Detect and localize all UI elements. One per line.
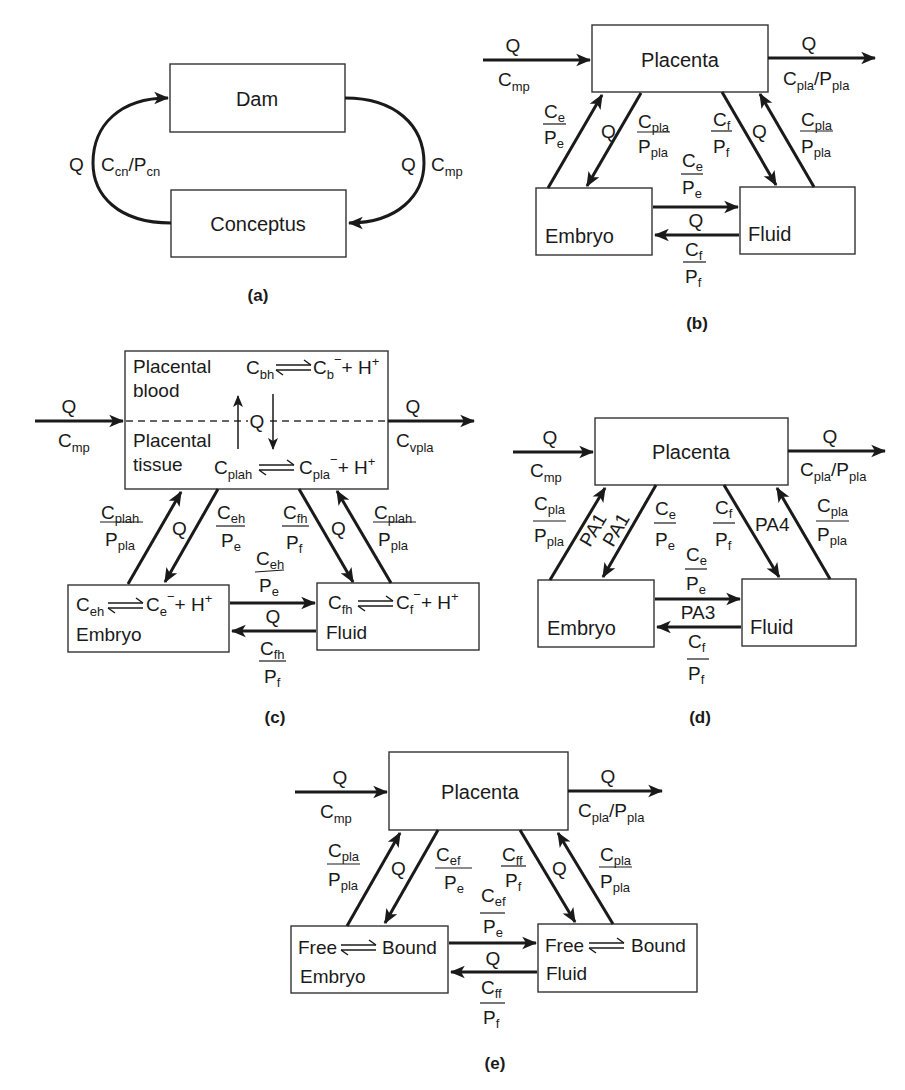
- frac-right-down: Cf Pf: [711, 109, 732, 160]
- svg-text:Ppla: Ppla: [378, 529, 409, 553]
- frac-left-up: Ce Pe: [543, 101, 566, 151]
- frac-right-down: Cfh Pf: [282, 502, 309, 556]
- svg-text:Cfh: Cfh: [283, 502, 308, 526]
- fluid-label: Fluid: [326, 622, 367, 643]
- frac-mid-top: Ceh Pe: [255, 548, 284, 599]
- mid-q: Q: [486, 948, 501, 969]
- frac-right-up: Cpla Ppla: [800, 109, 833, 160]
- caption-c: (c): [265, 708, 286, 727]
- embryo-label: Embryo: [300, 966, 365, 987]
- panel-b: Placenta Embryo Fluid Q Cmp Q Cpla/Ppla …: [483, 25, 875, 333]
- svg-text:Ppla: Ppla: [638, 136, 669, 160]
- svg-text:Ceh: Ceh: [217, 502, 245, 526]
- frac-mid-top: Ce Pe: [681, 150, 703, 201]
- caption-b: (b): [686, 314, 708, 333]
- svg-text:Cef: Cef: [436, 844, 461, 868]
- svg-text:Pf: Pf: [483, 1007, 500, 1031]
- svg-text:Cpla: Cpla: [328, 840, 360, 864]
- panel-e: Placenta Free Bound Embryo Free Bound Fl…: [291, 752, 697, 1073]
- svg-text:Bound: Bound: [631, 935, 686, 956]
- placental-blood-label-2: blood: [133, 380, 180, 401]
- dam-label: Dam: [236, 88, 278, 110]
- svg-text:Pe: Pe: [682, 177, 702, 201]
- inflow-conc: Cmp: [530, 460, 562, 485]
- svg-text:Ppla: Ppla: [534, 525, 565, 549]
- frac-right-up: Cplah Ppla: [373, 502, 416, 553]
- svg-text:Cf: Cf: [688, 631, 706, 655]
- svg-text:Pf: Pf: [286, 532, 303, 556]
- conceptus-label: Conceptus: [210, 213, 306, 235]
- mid-q: Q: [689, 210, 704, 231]
- placental-tissue-label-2: tissue: [133, 454, 183, 475]
- svg-text:Cff: Cff: [481, 977, 502, 1001]
- svg-text:Ppla: Ppla: [328, 869, 359, 893]
- svg-text:Cef: Cef: [481, 885, 506, 909]
- left-q: Q: [601, 121, 616, 142]
- right-conc-label: Cmp: [431, 154, 463, 179]
- svg-text:Pf: Pf: [505, 870, 522, 894]
- svg-text:Pe: Pe: [483, 916, 503, 940]
- frac-mid-bottom: Cfh Pf: [259, 638, 286, 690]
- outflow-conc: Cvpla: [396, 430, 434, 455]
- placenta-label: Placenta: [441, 781, 520, 803]
- right-q: Q: [752, 121, 767, 142]
- inflow-conc: Cmp: [498, 69, 530, 94]
- inflow-conc: Cmp: [320, 801, 352, 826]
- inflow-q: Q: [506, 35, 521, 56]
- svg-text:Cf: Cf: [685, 239, 703, 263]
- svg-text:Cpla: Cpla: [801, 109, 833, 133]
- svg-text:Pe: Pe: [259, 575, 279, 599]
- frac-left-up: Cpla Ppla: [327, 840, 360, 893]
- inflow-q: Q: [333, 767, 348, 788]
- frac-left-up: Cpla Ppla: [533, 493, 566, 549]
- outflow-q: Q: [802, 33, 817, 54]
- svg-text:Ce: Ce: [686, 544, 707, 568]
- svg-text:Cb−+ H+: Cb−+ H+: [313, 352, 379, 382]
- placenta-label: Placenta: [641, 49, 720, 71]
- embryo-label: Embryo: [76, 624, 141, 645]
- svg-text:Ppla: Ppla: [600, 871, 631, 895]
- svg-text:Pe: Pe: [655, 529, 675, 553]
- svg-text:Cf: Cf: [715, 497, 733, 521]
- svg-text:Pf: Pf: [715, 529, 732, 553]
- svg-text:Cfh: Cfh: [260, 638, 285, 662]
- caption-a: (a): [248, 286, 269, 305]
- svg-text:Ce: Ce: [544, 101, 565, 125]
- left-q: Q: [172, 518, 187, 539]
- svg-text:Cpla: Cpla: [817, 495, 849, 519]
- frac-left-down: Ceh Pe: [216, 502, 245, 554]
- left-flow-q: Q: [69, 154, 84, 175]
- left-q: Q: [391, 858, 406, 879]
- pa4-label: PA4: [755, 514, 790, 535]
- svg-text:Pe: Pe: [444, 872, 464, 896]
- embryo-label: Embryo: [547, 617, 616, 639]
- svg-text:Pf: Pf: [713, 136, 730, 160]
- inflow-conc: Cmp: [58, 430, 90, 455]
- outflow-conc: Cpla/Ppla: [783, 68, 850, 93]
- outflow-conc: Cpla/Ppla: [800, 459, 867, 484]
- fluid-label: Fluid: [748, 223, 791, 245]
- panel-c: Placental blood Placental tissue Cbh Cb−…: [35, 351, 479, 727]
- svg-text:Pf: Pf: [685, 266, 702, 290]
- mid-q: Q: [266, 606, 281, 627]
- svg-text:Ceh: Ceh: [256, 548, 284, 572]
- right-q: Q: [331, 518, 346, 539]
- svg-text:Pf: Pf: [264, 666, 281, 690]
- right-q: Q: [552, 858, 567, 879]
- svg-text:Ce: Ce: [655, 498, 676, 522]
- pa3-label: PA3: [681, 602, 716, 623]
- svg-text:Free: Free: [298, 937, 337, 958]
- svg-text:Free: Free: [545, 935, 584, 956]
- frac-mid-top: Ce Pe: [685, 544, 707, 597]
- pa1-down-label: PA1: [598, 510, 633, 550]
- svg-text:Cf−+ H+: Cf−+ H+: [396, 587, 459, 617]
- svg-text:Ppla: Ppla: [105, 529, 136, 553]
- svg-text:Pe: Pe: [686, 573, 706, 597]
- caption-e: (e): [485, 1054, 506, 1073]
- fluid-label: Fluid: [546, 963, 587, 984]
- panel-d: Placenta Embryo Fluid Q Cmp Q Cpla/Ppla …: [513, 418, 885, 727]
- svg-text:Ppla: Ppla: [801, 136, 832, 160]
- svg-text:Pf: Pf: [688, 663, 705, 687]
- outflow-q: Q: [823, 426, 838, 447]
- frac-right-down: Cf Pf: [713, 497, 735, 553]
